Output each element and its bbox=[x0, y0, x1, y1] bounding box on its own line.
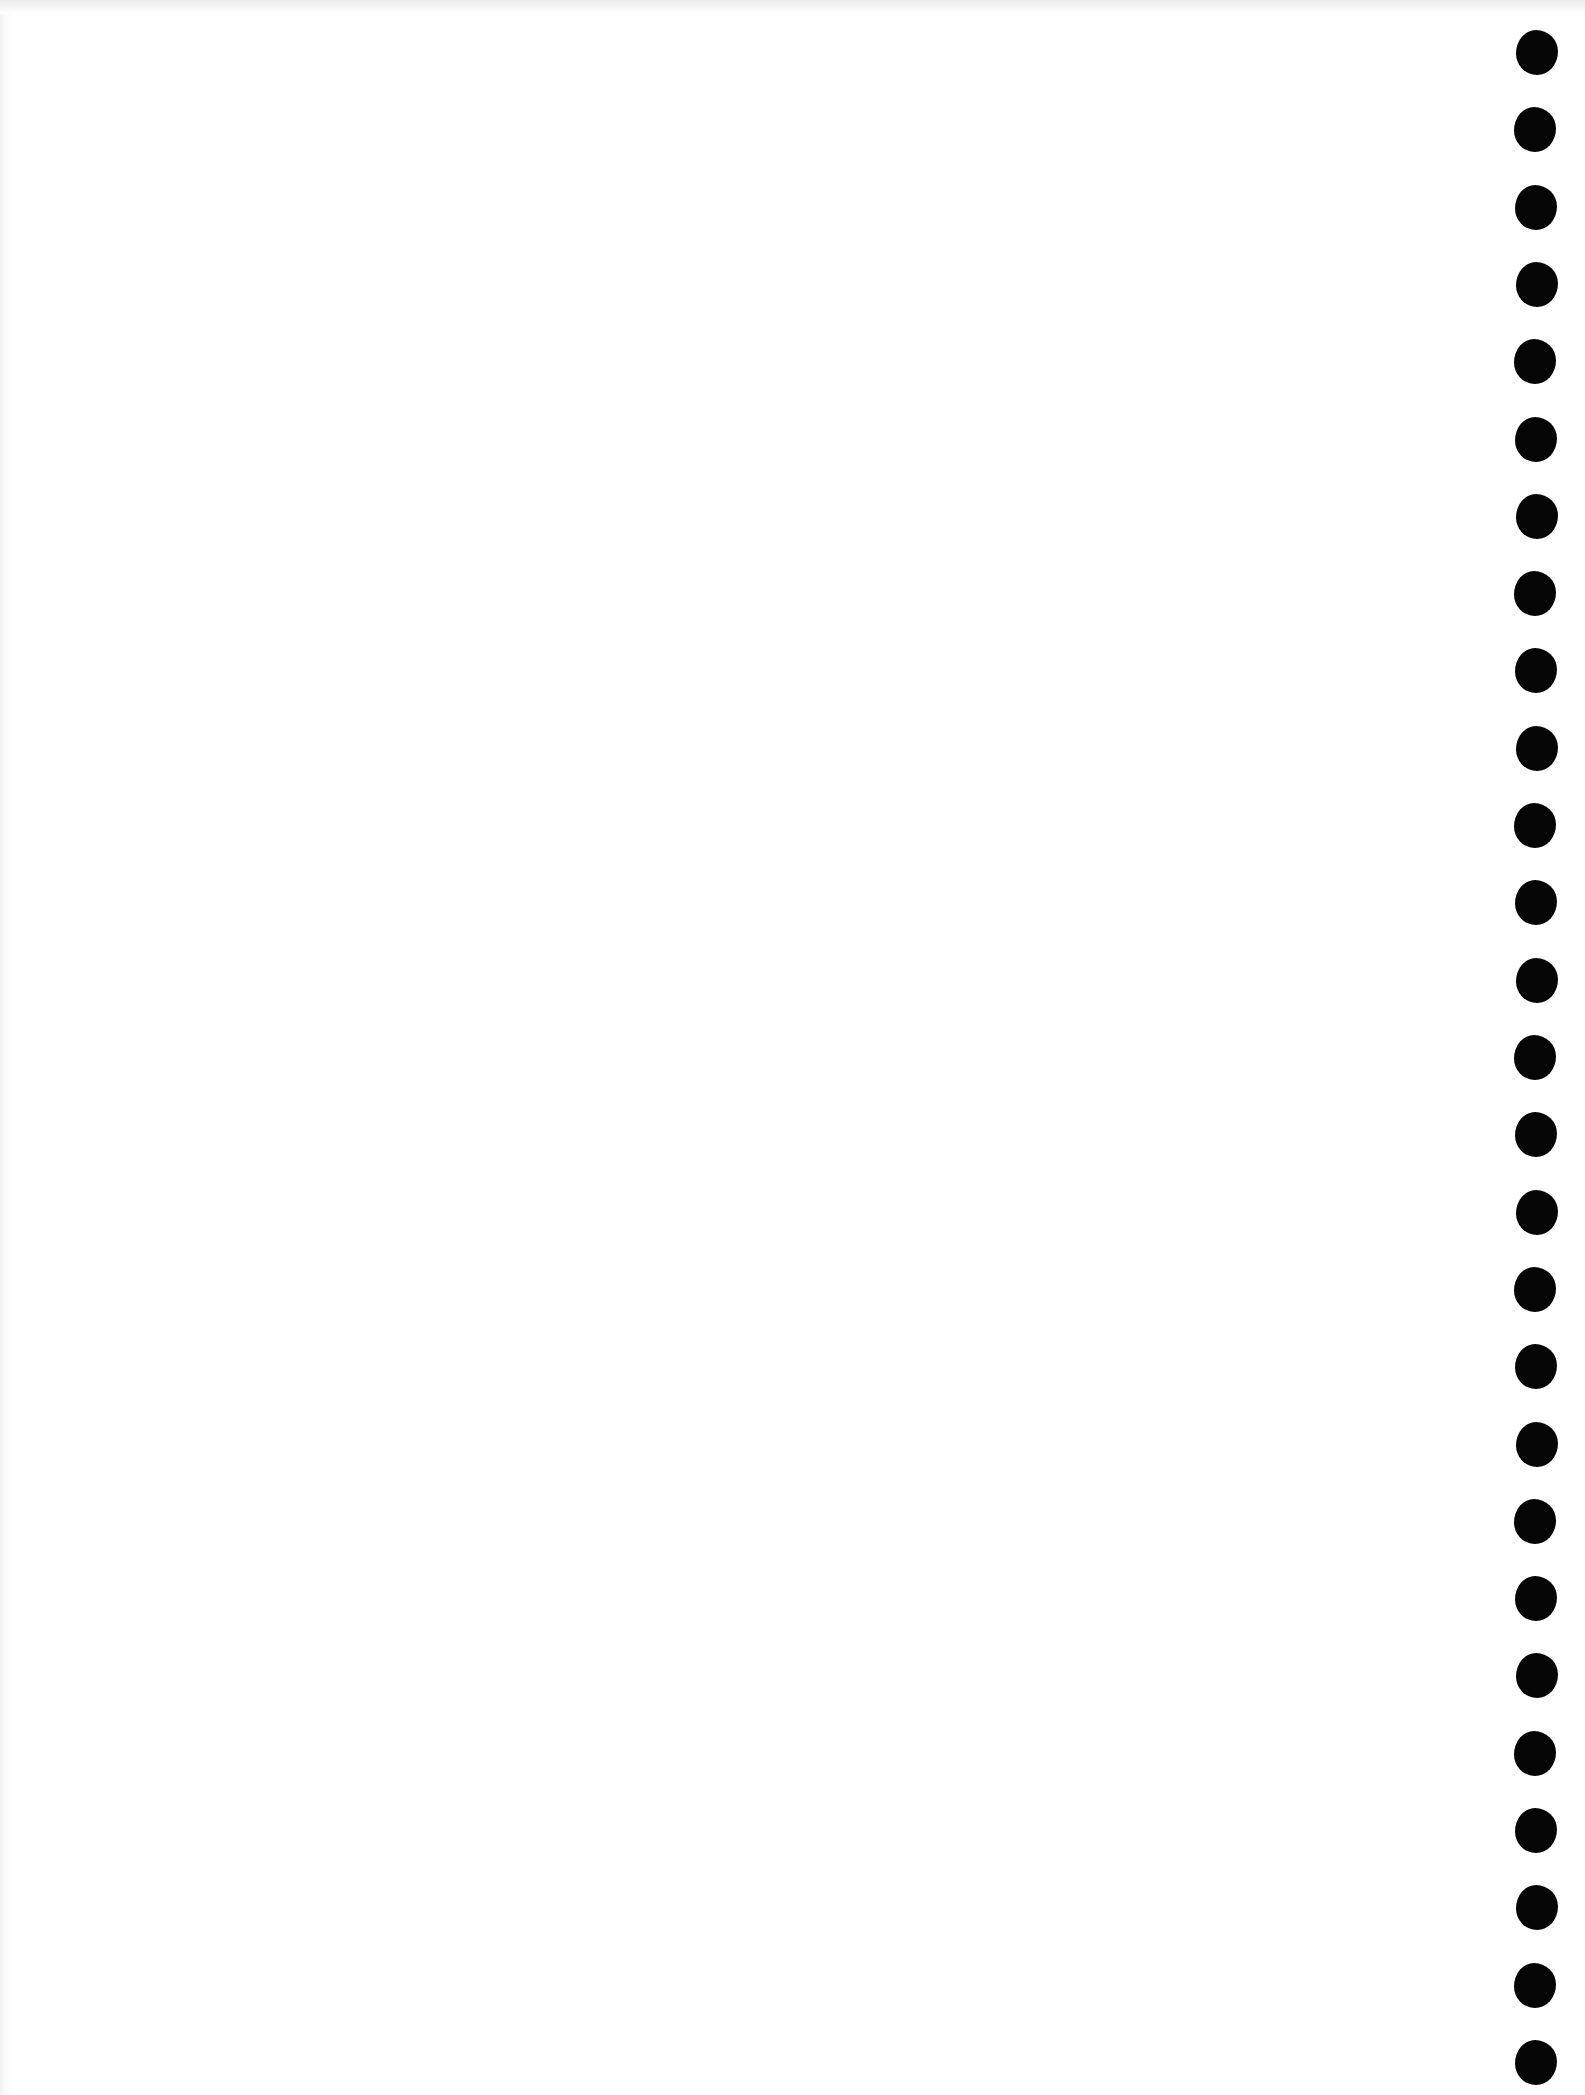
binding-hole-icon bbox=[1515, 880, 1557, 925]
binding-hole-icon bbox=[1515, 1344, 1557, 1389]
binding-hole-icon bbox=[1514, 339, 1556, 384]
binding-hole-icon bbox=[1516, 262, 1558, 307]
binding-hole-icon bbox=[1514, 107, 1556, 152]
page-top-edge-shadow bbox=[0, 0, 1585, 14]
binding-hole-icon bbox=[1516, 494, 1558, 539]
binding-hole-icon bbox=[1515, 1576, 1557, 1621]
binding-hole-column bbox=[1515, 0, 1565, 2095]
binding-hole-icon bbox=[1516, 726, 1558, 771]
binding-hole-icon bbox=[1514, 1267, 1556, 1312]
binding-hole-icon bbox=[1514, 1499, 1556, 1544]
binding-hole-icon bbox=[1515, 2040, 1557, 2085]
binding-hole-icon bbox=[1514, 803, 1556, 848]
binding-hole-icon bbox=[1516, 1653, 1558, 1698]
binding-hole-icon bbox=[1514, 571, 1556, 616]
binding-hole-icon bbox=[1516, 958, 1558, 1003]
notebook-page bbox=[0, 0, 1585, 2095]
binding-hole-icon bbox=[1516, 1190, 1558, 1235]
binding-hole-icon bbox=[1515, 417, 1557, 462]
binding-hole-icon bbox=[1514, 1035, 1556, 1080]
binding-hole-icon bbox=[1516, 30, 1558, 75]
binding-hole-icon bbox=[1514, 1731, 1556, 1776]
binding-hole-icon bbox=[1515, 1808, 1557, 1853]
binding-hole-icon bbox=[1515, 185, 1557, 230]
binding-hole-icon bbox=[1515, 1112, 1557, 1157]
binding-hole-icon bbox=[1516, 1422, 1558, 1467]
binding-hole-icon bbox=[1515, 648, 1557, 693]
binding-hole-icon bbox=[1514, 1963, 1556, 2008]
binding-hole-icon bbox=[1516, 1885, 1558, 1930]
